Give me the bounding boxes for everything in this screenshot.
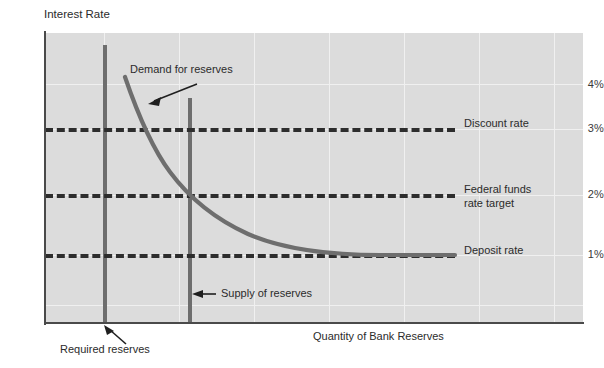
gridline-vertical xyxy=(404,33,405,323)
deposit-rate-line xyxy=(45,254,455,258)
y-axis-title: Interest Rate xyxy=(44,8,110,20)
plot-area xyxy=(45,33,583,323)
supply-of-reserves-annotation: Supply of reserves xyxy=(221,287,312,299)
required-annotation-arrowhead xyxy=(104,325,114,335)
required-reserves-line xyxy=(103,45,107,323)
federal-funds-rate-target-line xyxy=(45,194,455,198)
gridline-vertical xyxy=(254,33,255,323)
gridline-horizontal xyxy=(45,305,583,306)
federal-funds-rate-target-label-line1: Federal funds xyxy=(464,182,531,196)
required-reserves-annotation: Required reserves xyxy=(60,343,150,355)
gridline-vertical xyxy=(329,33,330,323)
x-axis-title: Quantity of Bank Reserves xyxy=(313,330,444,342)
y-tick-label-4pct: 4% xyxy=(564,79,604,90)
y-tick-label-1pct: 1% xyxy=(564,249,604,260)
y-tick-label-3pct: 3% xyxy=(564,123,604,134)
deposit-rate-label: Deposit rate xyxy=(464,243,523,257)
gridline-horizontal xyxy=(45,84,583,85)
y-axis-line xyxy=(44,31,46,325)
discount-rate-line xyxy=(45,128,455,132)
discount-rate-label: Discount rate xyxy=(464,116,529,130)
gridline-vertical xyxy=(554,33,555,323)
x-axis-line xyxy=(44,322,584,324)
gridline-vertical xyxy=(179,33,180,323)
y-tick-label-2pct: 2% xyxy=(564,189,604,200)
federal-funds-rate-target-label: Federal funds rate target xyxy=(464,182,531,210)
reserves-market-chart: Interest Rate Quantity of Bank Reserves … xyxy=(0,0,604,368)
gridline-vertical xyxy=(479,33,480,323)
demand-for-reserves-annotation: Demand for reserves xyxy=(130,63,233,75)
required-annotation-arrow-shaft xyxy=(110,330,126,344)
federal-funds-rate-target-label-line2: rate target xyxy=(464,196,531,210)
